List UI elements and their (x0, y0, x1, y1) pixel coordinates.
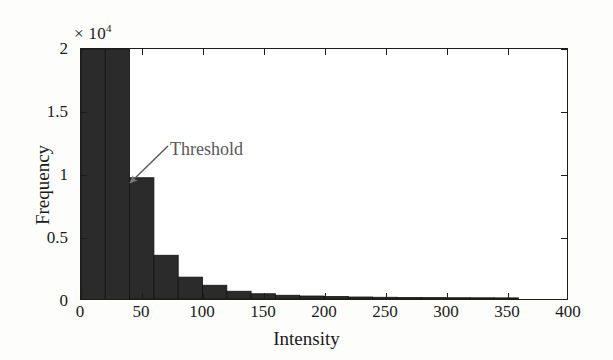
x-axis-tick (264, 293, 265, 299)
x-axis-tick-label: 300 (433, 303, 459, 320)
histogram-bar (300, 296, 324, 299)
x-axis-tick (386, 49, 387, 55)
x-axis-tick-label: 400 (555, 303, 581, 320)
histogram-bar (397, 298, 421, 299)
x-axis-tick (325, 49, 326, 55)
x-axis-tick (508, 49, 509, 55)
y-axis-tick (81, 49, 87, 50)
x-axis-tick (142, 49, 143, 55)
y-axis-tick (81, 112, 87, 113)
histogram-bar (81, 49, 105, 299)
x-axis-tick (447, 293, 448, 299)
histogram-bar (348, 297, 372, 299)
x-axis-tick (264, 49, 265, 55)
x-axis-tick-label: 0 (76, 303, 85, 320)
histogram-bar (227, 291, 251, 299)
y-axis-tick-label: 2 (60, 40, 75, 57)
x-axis-tick (325, 293, 326, 299)
histogram-bar (178, 277, 202, 299)
histogram-bar (324, 297, 348, 300)
y-axis-tick (561, 238, 567, 239)
y-axis-title: Frequency (32, 105, 54, 265)
y-axis-multiplier-base: × 10 (74, 24, 106, 43)
x-axis-tick (203, 293, 204, 299)
y-axis-tick (561, 175, 567, 176)
histogram-bar (105, 49, 129, 299)
histogram-figure: × 104 00.511.52 050100150200250300350400… (0, 0, 613, 360)
x-axis-tick-label: 150 (250, 303, 276, 320)
x-axis-tick (508, 293, 509, 299)
histogram-bar (494, 298, 518, 299)
plot-area (80, 48, 568, 300)
x-axis-tick (447, 49, 448, 55)
histogram-bar (421, 298, 445, 299)
histogram-bar (203, 285, 227, 299)
x-axis-title: Intensity (0, 328, 613, 350)
y-axis-multiplier-exponent: 4 (106, 22, 112, 34)
histogram-bars (81, 49, 567, 299)
histogram-bar (275, 295, 299, 299)
histogram-bar (130, 178, 154, 299)
x-axis-tick (81, 293, 82, 299)
y-axis-tick-label: 0 (60, 292, 75, 309)
histogram-bar (154, 255, 178, 299)
x-axis-tick-label: 100 (189, 303, 215, 320)
histogram-bar (470, 298, 494, 299)
x-axis-tick-label: 250 (372, 303, 398, 320)
y-axis-tick (81, 175, 87, 176)
x-axis-tick (142, 293, 143, 299)
y-axis-tick (81, 238, 87, 239)
x-axis-tick-label: 200 (311, 303, 337, 320)
y-axis-tick (561, 112, 567, 113)
threshold-annotation-label: Threshold (170, 139, 243, 160)
x-axis-tick (203, 49, 204, 55)
x-axis-tick-label: 350 (494, 303, 520, 320)
x-axis-tick (386, 293, 387, 299)
y-axis-multiplier: × 104 (74, 22, 112, 44)
histogram-bar (446, 298, 470, 299)
x-axis-tick-label: 50 (133, 303, 150, 320)
histogram-bar (373, 297, 397, 299)
y-axis-tick (561, 49, 567, 50)
y-axis-tick-label: 1 (60, 166, 75, 183)
